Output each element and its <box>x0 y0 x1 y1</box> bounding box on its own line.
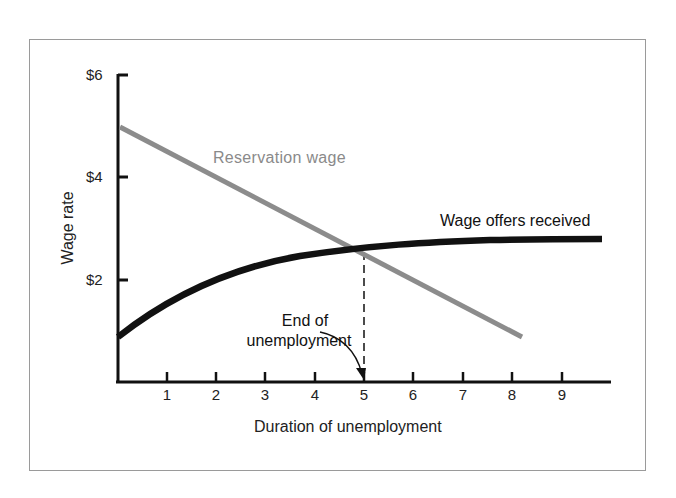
x-tick-2: 2 <box>206 386 226 403</box>
annotation-line-2: unemployment <box>244 331 354 351</box>
x-tick-7: 7 <box>453 386 473 403</box>
end-of-unemployment-annotation: End of unemployment <box>244 311 354 351</box>
y-tick-2: $2 <box>86 271 103 288</box>
reservation-wage-label: Reservation wage <box>213 149 346 167</box>
x-tick-4: 4 <box>305 386 325 403</box>
x-tick-3: 3 <box>255 386 275 403</box>
y-axis-title: Wage rate <box>59 191 77 264</box>
wage-offers-label: Wage offers received <box>440 212 590 230</box>
x-tick-9: 9 <box>552 386 572 403</box>
annotation-line-1: End of <box>244 311 354 331</box>
x-tick-5: 5 <box>354 386 374 403</box>
y-tick-4: $4 <box>86 168 103 185</box>
x-axis-title: Duration of unemployment <box>254 418 442 436</box>
x-tick-8: 8 <box>502 386 522 403</box>
y-tick-6: $6 <box>86 66 103 83</box>
x-tick-6: 6 <box>403 386 423 403</box>
x-tick-1: 1 <box>157 386 177 403</box>
